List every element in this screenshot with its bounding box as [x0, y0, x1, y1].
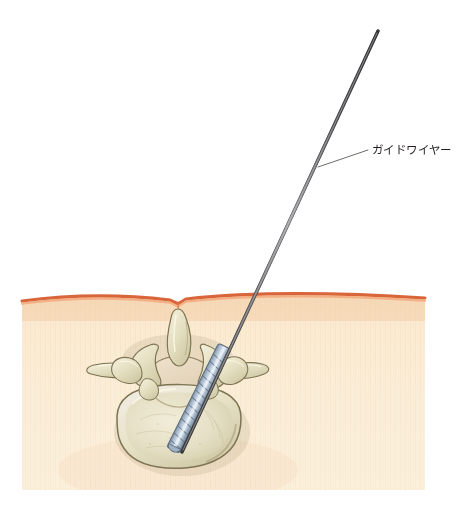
medical-illustration-figure: ガイドワイヤー	[0, 0, 469, 508]
illustration-canvas	[0, 0, 469, 508]
guidewire-label: ガイドワイヤー	[372, 143, 452, 157]
label-leader-line	[318, 150, 368, 167]
